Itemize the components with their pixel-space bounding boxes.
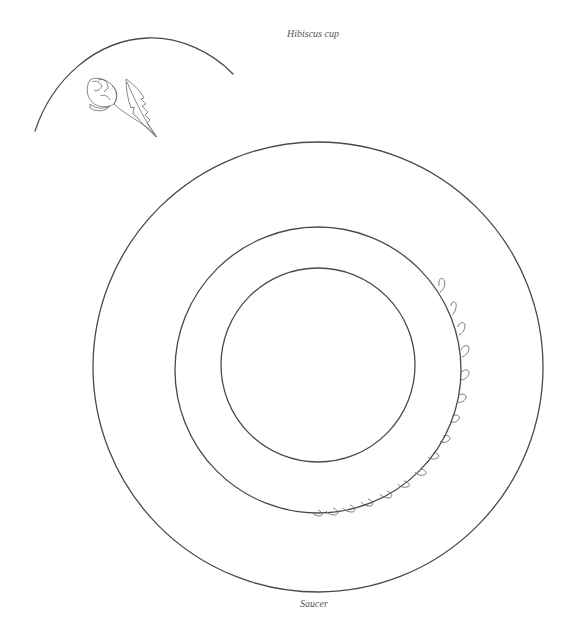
garland-leaf-icon: [451, 302, 456, 315]
teardrop-garland: [312, 278, 469, 516]
garland-leaf-icon: [439, 278, 445, 292]
saucer-caption: Saucer: [300, 598, 328, 609]
hibiscus-bud-icon: [87, 78, 156, 137]
hibiscus-leaf-icon: [126, 79, 157, 137]
saucer-outer-rim: [93, 142, 543, 592]
garland-leaf-icon: [461, 346, 469, 357]
garland-leaf-icon: [461, 370, 469, 380]
garland-leaf-icon: [380, 491, 392, 498]
cup-caption: Hibiscus cup: [287, 28, 339, 39]
pattern-sheet: Hibiscus cup Saucer: [0, 0, 576, 624]
saucer-inner-well: [221, 268, 415, 462]
drawing-svg: [0, 0, 576, 624]
cup-rim-arc: [35, 38, 233, 131]
garland-leaf-icon: [458, 323, 465, 335]
saucer-middle-ring: [175, 227, 461, 513]
